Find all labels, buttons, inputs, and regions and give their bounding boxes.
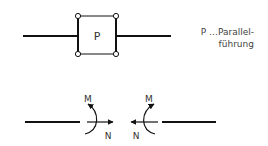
diagram-canvas: P M N M N	[0, 0, 268, 146]
normal-label-right: N	[133, 131, 140, 141]
moment-arc-right	[144, 104, 155, 134]
moment-label-right: M	[145, 94, 153, 104]
legend: P …Parallel- führung	[201, 26, 254, 50]
normal-label-left: N	[105, 131, 112, 141]
hinge-bottom-right	[113, 51, 118, 56]
internal-forces-left: M N	[25, 94, 113, 141]
legend-line-1: P …Parallel-	[201, 26, 254, 38]
moment-label-left: M	[84, 94, 92, 104]
hinge-bottom-left	[75, 51, 80, 56]
parallel-guide-diagram: P	[23, 13, 171, 56]
box-label: P	[94, 30, 101, 43]
hinge-top-left	[75, 13, 80, 18]
hinge-top-right	[113, 13, 118, 18]
internal-forces-right: M N	[131, 94, 216, 141]
legend-line-2: führung	[201, 38, 254, 50]
moment-arc-left	[85, 104, 97, 134]
